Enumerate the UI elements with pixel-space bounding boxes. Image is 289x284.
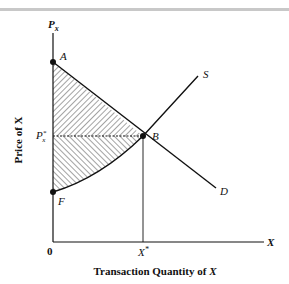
point-a-label: A — [59, 50, 67, 62]
demand-label: D — [219, 185, 228, 197]
x-axis-title: Transaction Quantity of X — [94, 265, 218, 277]
producer-surplus-area — [53, 136, 143, 192]
equilibrium-quantity-label: X* — [137, 245, 149, 258]
point-f-marker — [50, 189, 56, 195]
supply-demand-diagram: A B F S D Px P*x 0 X* X Transaction Quan… — [0, 0, 289, 284]
equilibrium-price-label: P*x — [35, 129, 47, 144]
point-f-label: F — [57, 195, 65, 207]
point-a-marker — [50, 59, 56, 65]
point-b-marker — [140, 133, 146, 139]
y-axis-title: Price of X — [12, 116, 24, 163]
origin-label: 0 — [47, 245, 53, 257]
x-axis-symbol: X — [266, 236, 275, 248]
y-axis-symbol: Px — [48, 18, 59, 33]
point-b-label: B — [152, 130, 159, 142]
supply-label: S — [203, 68, 209, 80]
